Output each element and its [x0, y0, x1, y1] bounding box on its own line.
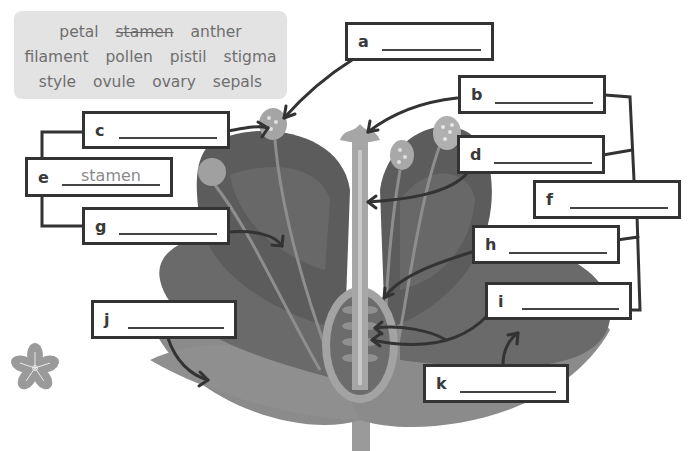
word-bank-row-2: filament pollen pistil stigma: [14, 45, 287, 70]
word-sepals: sepals: [213, 73, 262, 91]
word-anther: anther: [191, 23, 242, 41]
answer-field-g[interactable]: [119, 217, 217, 235]
word-ovule: ovule: [93, 73, 135, 91]
label-box-e[interactable]: e stamen: [25, 157, 173, 197]
label-letter-f: f: [546, 190, 566, 209]
flower-decoration-icon: [9, 343, 61, 393]
label-box-a[interactable]: a: [345, 22, 494, 61]
label-box-d[interactable]: d: [457, 135, 605, 174]
answer-field-c[interactable]: [119, 121, 217, 139]
word-ovary: ovary: [152, 73, 196, 91]
label-box-i[interactable]: i: [485, 282, 632, 320]
word-filament: filament: [24, 48, 88, 66]
answer-field-a[interactable]: [382, 33, 481, 51]
word-bank: petal stamen anther filament pollen pist…: [14, 11, 287, 99]
answer-field-j[interactable]: [128, 311, 224, 329]
label-letter-j: j: [104, 310, 124, 329]
label-box-f[interactable]: f: [533, 180, 681, 219]
label-box-c[interactable]: c: [82, 111, 230, 149]
label-box-k[interactable]: k: [423, 364, 569, 403]
word-bank-row-3: style ovule ovary sepals: [14, 70, 287, 95]
answer-field-h[interactable]: [509, 236, 607, 254]
answer-field-b[interactable]: [495, 86, 593, 104]
label-letter-b: b: [471, 85, 491, 104]
flower-diagram-worksheet: petal stamen anther filament pollen pist…: [0, 0, 695, 451]
word-pistil: pistil: [170, 48, 207, 66]
word-bank-row-1: petal stamen anther: [14, 20, 287, 45]
word-pollen: pollen: [106, 48, 153, 66]
label-letter-k: k: [436, 374, 456, 393]
label-box-g[interactable]: g: [82, 207, 230, 245]
word-style: style: [39, 73, 76, 91]
answer-field-d[interactable]: [494, 146, 592, 164]
label-letter-h: h: [485, 235, 505, 254]
label-letter-g: g: [95, 217, 115, 236]
answer-field-f[interactable]: [570, 191, 668, 209]
label-letter-i: i: [498, 292, 518, 311]
label-letter-c: c: [95, 121, 115, 140]
anther-d: [390, 140, 414, 170]
label-letter-d: d: [470, 145, 490, 164]
word-stamen-struck: stamen: [116, 23, 174, 41]
answer-field-k[interactable]: [460, 375, 556, 393]
word-petal: petal: [59, 23, 98, 41]
word-stigma: stigma: [224, 48, 277, 66]
anther-e: [198, 158, 226, 186]
label-letter-a: a: [358, 32, 378, 51]
label-box-h[interactable]: h: [472, 225, 620, 264]
label-letter-e: e: [38, 168, 58, 187]
label-box-j[interactable]: j: [91, 300, 237, 339]
label-box-b[interactable]: b: [458, 75, 606, 114]
answer-field-i[interactable]: [522, 292, 619, 310]
answer-field-e[interactable]: stamen: [62, 168, 160, 186]
